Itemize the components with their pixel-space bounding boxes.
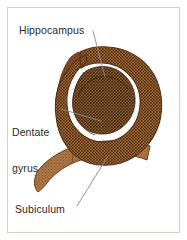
label-hippocampus: Hippocampus bbox=[19, 24, 84, 36]
label-dentate-gyrus-line1: Dentate bbox=[12, 126, 49, 138]
figure-root: Hippocampus Dentate gyrus Subiculum bbox=[0, 0, 187, 240]
label-dentate-gyrus: Dentate gyrus bbox=[12, 102, 49, 198]
structure-dentate-gyrus bbox=[72, 67, 135, 135]
label-subiculum: Subiculum bbox=[15, 203, 65, 215]
label-dentate-gyrus-line2: gyrus bbox=[12, 162, 49, 174]
